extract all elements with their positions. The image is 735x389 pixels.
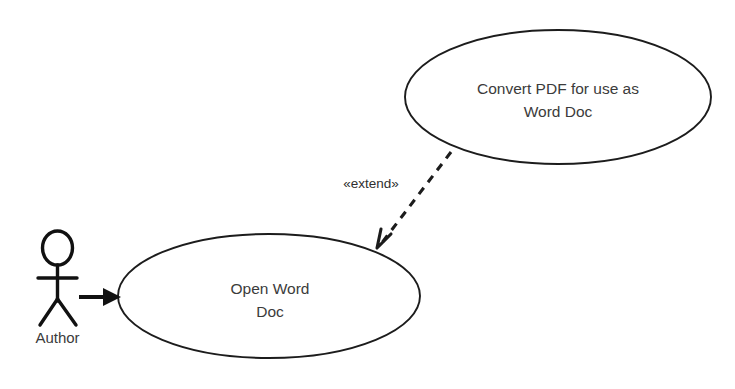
actor-label-author: Author xyxy=(35,329,79,346)
diagram-canvas: Convert PDF for use as Word Doc Open Wor… xyxy=(0,0,735,389)
use-case-label-convert-pdf-line2: Word Doc xyxy=(524,103,593,120)
use-case-open-word-doc[interactable]: Open Word Doc xyxy=(118,234,420,358)
use-case-label-open-word-doc-line1: Open Word xyxy=(231,280,310,297)
extend-stereotype-label: «extend» xyxy=(343,176,399,191)
actor-author[interactable]: Author xyxy=(35,231,79,346)
extend-dashed-line[interactable] xyxy=(381,152,451,244)
actor-left-leg-icon xyxy=(40,299,58,325)
extend-relationship[interactable]: «extend» xyxy=(343,152,451,248)
use-case-label-open-word-doc-line2: Doc xyxy=(256,303,284,320)
actor-right-leg-icon xyxy=(58,299,77,325)
actor-head-icon xyxy=(43,231,73,265)
association-author-to-open-word-doc[interactable] xyxy=(79,288,121,306)
use-case-diagram: Convert PDF for use as Word Doc Open Wor… xyxy=(0,0,735,389)
use-case-convert-pdf[interactable]: Convert PDF for use as Word Doc xyxy=(405,30,711,164)
use-case-label-convert-pdf-line1: Convert PDF for use as xyxy=(477,80,639,97)
